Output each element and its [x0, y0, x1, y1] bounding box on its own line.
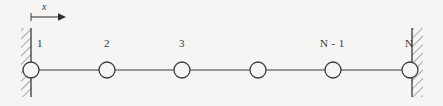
node-4 — [250, 62, 266, 78]
node-3 — [174, 62, 190, 78]
node-label-3: 3 — [179, 38, 185, 49]
figure-canvas: x 1 2 3 N - 1 N — [0, 0, 443, 106]
axis-label-x: x — [42, 2, 47, 12]
node-1 — [23, 62, 39, 78]
node-5 — [325, 62, 341, 78]
x-axis-arrow — [31, 13, 66, 21]
diagram-svg — [0, 0, 443, 106]
node-label-1: 1 — [37, 38, 43, 49]
node-6 — [402, 62, 418, 78]
node-2 — [99, 62, 115, 78]
node-label-2: 2 — [104, 38, 110, 49]
node-label-n-minus-1: N - 1 — [320, 38, 345, 49]
node-label-n: N — [405, 38, 413, 49]
